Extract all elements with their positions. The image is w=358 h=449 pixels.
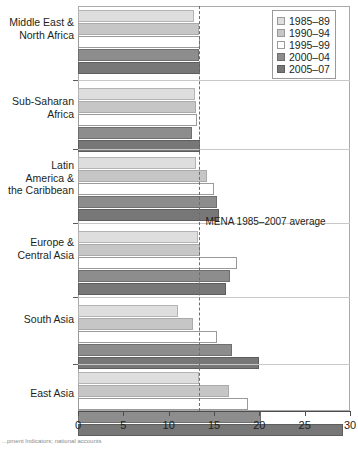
legend-item[interactable]: 1985–89 [277, 15, 330, 26]
cat-line: Middle East & [0, 16, 74, 29]
bar [78, 244, 200, 256]
bar [78, 231, 198, 243]
category-label-east-asia: East Asia [0, 387, 74, 400]
x-axis-tick-label: 0 [75, 419, 81, 431]
bar [78, 209, 219, 221]
bar-group [78, 88, 350, 153]
investment-share-bar-chart: Middle East & North Africa Sub-Saharan A… [0, 0, 358, 449]
bar [78, 36, 200, 48]
category-tick [73, 80, 78, 81]
category-tick [73, 149, 78, 150]
category-label-europe-central-asia: Europe & Central Asia [0, 236, 74, 261]
group-separator [78, 149, 350, 150]
legend-label: 1995–99 [289, 39, 330, 51]
x-axis-tick-label: 10 [163, 419, 175, 431]
category-label-sub-saharan-africa: Sub-Saharan Africa [0, 95, 74, 120]
bar [78, 140, 200, 152]
bar [78, 49, 199, 61]
legend-label: 2000–04 [289, 51, 330, 63]
bar [78, 385, 229, 397]
legend-label: 1985–89 [289, 15, 330, 27]
bar [78, 283, 226, 295]
bar [78, 305, 178, 317]
legend-item[interactable]: 2005–07 [277, 63, 330, 74]
bar [78, 170, 207, 182]
bar [78, 196, 217, 208]
bar [78, 23, 199, 35]
bar [78, 114, 197, 126]
cat-line: Europe & [0, 236, 74, 249]
bar [78, 101, 196, 113]
legend-swatch-icon [277, 41, 285, 49]
x-axis-tick [259, 411, 260, 416]
x-axis-tick-label: 5 [120, 419, 126, 431]
cat-line: East Asia [0, 387, 74, 400]
legend: 1985–891990–941995–992000–042005–07 [272, 10, 336, 79]
category-label-south-asia: South Asia [0, 313, 74, 326]
category-label-middle-east-north-africa: Middle East & North Africa [0, 16, 74, 41]
legend-label: 2005–07 [289, 63, 330, 75]
x-axis-tick [169, 411, 170, 416]
source-caption: ...pment Indicators; national accounts [2, 438, 101, 444]
cat-line: the Caribbean [0, 184, 74, 197]
legend-swatch-icon [277, 17, 285, 25]
bar [78, 183, 214, 195]
bar [78, 10, 194, 22]
x-axis-tick-label: 15 [208, 419, 220, 431]
category-tick [73, 223, 78, 224]
x-axis-tick [305, 411, 306, 416]
bar [78, 318, 193, 330]
x-axis-tick-label: 20 [253, 419, 265, 431]
bar [78, 88, 195, 100]
cat-line: Central Asia [0, 249, 74, 262]
bar [78, 357, 259, 369]
mena-average-label: MENA 1985–2007 average [205, 216, 325, 227]
bar-group [78, 231, 350, 296]
category-label-latin-america-caribbean: Latin America & the Caribbean [0, 159, 74, 197]
group-separator [78, 364, 350, 365]
bar [78, 62, 200, 74]
bar-group [78, 157, 350, 222]
x-axis-tick [214, 411, 215, 416]
group-separator [78, 297, 350, 298]
bar-group [78, 305, 350, 370]
x-axis-tick-label: 30 [344, 419, 356, 431]
x-axis-tick [123, 411, 124, 416]
bar [78, 331, 217, 343]
bar [78, 127, 192, 139]
legend-item[interactable]: 1990–94 [277, 27, 330, 38]
x-axis-tick-label: 25 [299, 419, 311, 431]
bar [78, 372, 199, 384]
bar [78, 157, 196, 169]
cat-line: Latin [0, 159, 74, 172]
legend-swatch-icon [277, 53, 285, 61]
bar [78, 257, 237, 269]
bar [78, 270, 230, 282]
group-separator [78, 80, 350, 81]
cat-line: Africa [0, 108, 74, 121]
cat-line: North Africa [0, 29, 74, 42]
cat-line: Sub-Saharan [0, 95, 74, 108]
cat-line: South Asia [0, 313, 74, 326]
legend-label: 1990–94 [289, 27, 330, 39]
x-axis-tick [78, 411, 79, 416]
category-tick [73, 364, 78, 365]
mena-average-reference-line [199, 6, 200, 411]
legend-swatch-icon [277, 29, 285, 37]
category-tick [73, 297, 78, 298]
legend-item[interactable]: 1995–99 [277, 39, 330, 50]
legend-swatch-icon [277, 65, 285, 73]
bar [78, 398, 248, 410]
cat-line: America & [0, 172, 74, 185]
x-axis-tick [350, 411, 351, 416]
legend-item[interactable]: 2000–04 [277, 51, 330, 62]
bar [78, 344, 232, 356]
